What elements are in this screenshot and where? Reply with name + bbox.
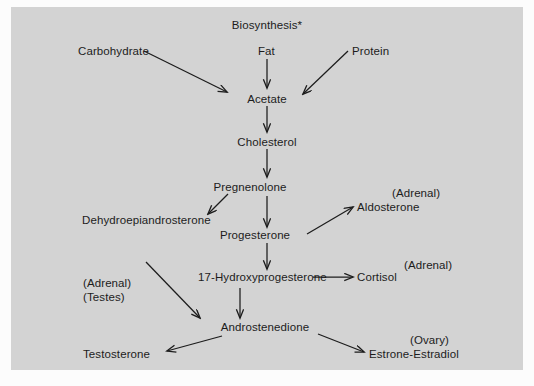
node-protein: Protein [352, 45, 389, 58]
node-cholesterol: Cholesterol [237, 136, 296, 149]
tissue-label-adrenal-testes: (Adrenal) [83, 276, 131, 290]
tissue-label-adrenal-cortisol: (Adrenal) [404, 258, 452, 272]
node-aldosterone: Aldosterone [357, 201, 419, 214]
tissue-label-ovary: (Ovary) [410, 333, 449, 347]
diagram-title: Biosynthesis* [232, 19, 302, 31]
figure-canvas: Biosynthesis* Carbohydrate Fat Protein A… [0, 0, 534, 386]
tissue-label-adrenal-aldosterone: (Adrenal) [392, 186, 440, 200]
node-cortisol: Cortisol [357, 271, 397, 284]
tissue-label-testes: (Testes) [83, 290, 125, 304]
node-dehydroepiandrosterone: Dehydroepiandrosterone [82, 214, 211, 227]
node-pregnenolone: Pregnenolone [214, 181, 287, 194]
node-acetate: Acetate [247, 93, 287, 106]
node-fat: Fat [258, 45, 275, 58]
node-testosterone: Testosterone [83, 348, 150, 361]
node-progesterone: Progesterone [220, 229, 290, 242]
node-carbohydrate: Carbohydrate [78, 45, 149, 58]
node-estrone-estradiol: Estrone-Estradiol [369, 348, 459, 361]
node-androstenedione: Androstenedione [221, 321, 309, 334]
node-17-hydroxyprogesterone: 17-Hydroxyprogesterone [198, 271, 327, 284]
